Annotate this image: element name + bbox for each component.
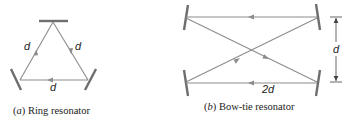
dimension-arrow-up-icon (334, 18, 339, 23)
arrow-down-right-icon (262, 54, 269, 59)
caption-text-b: Bow-tie resonator (219, 101, 295, 112)
caption-tag-a: a (17, 105, 22, 116)
arrow-left-icon (248, 15, 254, 20)
label-bottom-d: d (50, 81, 57, 93)
label-2d: 2d (261, 83, 275, 95)
dimension-arrow-down-icon (334, 76, 339, 81)
caption-ring-resonator: (a) Ring resonator (13, 105, 90, 116)
bottom-left-mirror (11, 69, 21, 90)
caption-bowtie-resonator: (b) Bow-tie resonator (204, 101, 294, 112)
arrow-left-icon (248, 81, 254, 86)
caption-tag-b: b (208, 101, 213, 112)
label-right-d: d (75, 40, 82, 52)
arrow-up-icon (34, 50, 39, 56)
caption-text-a: Ring resonator (28, 105, 90, 116)
label-separation-d: d (333, 43, 340, 55)
bowtie-resonator: d 2d (184, 4, 342, 96)
label-left-d: d (24, 40, 31, 52)
ring-resonator: d d d (11, 21, 96, 93)
